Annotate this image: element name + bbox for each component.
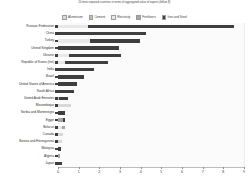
legend-label: Fertilizers — [142, 15, 155, 20]
bar-segment-iron-and-steel[interactable] — [58, 147, 61, 150]
category-label: Serbia and Montenegro — [0, 109, 54, 116]
category-label: Republic of Korea (the) — [0, 59, 54, 66]
stacked-bar[interactable] — [58, 140, 62, 143]
bar-row — [58, 153, 244, 160]
bar-segment-iron-and-steel[interactable] — [90, 39, 140, 42]
category-label: Russian Federation — [0, 23, 54, 30]
bar-segment-fertilizers[interactable] — [62, 126, 65, 129]
category-label: United Kingdom — [0, 45, 54, 52]
legend-item-electricity[interactable]: Electricity — [111, 15, 130, 20]
bar-segment-iron-and-steel[interactable] — [58, 68, 94, 71]
legend-swatch-icon — [62, 15, 67, 20]
row-background — [58, 95, 244, 102]
value-axis-baseline — [58, 167, 244, 168]
stacked-bar[interactable] — [58, 104, 71, 107]
legend-item-aluminium[interactable]: Aluminium — [62, 15, 82, 20]
stacked-bar[interactable] — [58, 90, 74, 93]
row-background — [58, 73, 244, 80]
stacked-bar[interactable] — [58, 111, 65, 114]
legend-swatch-icon — [89, 15, 94, 20]
axis-tick-label: 3 — [119, 170, 121, 175]
chart-legend: AluminiumCementElectricityFertilizersIro… — [0, 15, 249, 20]
category-label: Brazil — [0, 73, 54, 80]
bar-segment-iron-and-steel[interactable] — [58, 90, 74, 93]
bar-segment-iron-and-steel[interactable] — [69, 54, 121, 57]
stacked-bar[interactable] — [58, 82, 77, 85]
bar-segment-electricity[interactable] — [58, 39, 90, 42]
bar-row — [58, 145, 244, 152]
legend-swatch-icon — [136, 15, 141, 20]
category-label: Ukraine — [0, 52, 54, 59]
axis-tick-label: 5 — [160, 170, 162, 175]
axis-tick-label: 7 — [202, 170, 204, 175]
bar-segment-fertilizers[interactable] — [58, 154, 60, 157]
bar-row — [58, 52, 244, 59]
bar-segment-iron-and-steel[interactable] — [65, 61, 107, 64]
bar-segment-aluminium[interactable] — [58, 133, 63, 136]
stacked-bar[interactable] — [58, 54, 121, 57]
row-background — [58, 81, 244, 88]
bar-row — [58, 95, 244, 102]
stacked-bar[interactable] — [58, 133, 63, 136]
bar-segment-iron-and-steel[interactable] — [58, 111, 65, 114]
bar-segment-electricity[interactable] — [58, 54, 69, 57]
legend-swatch-icon — [162, 15, 167, 20]
category-label: Malaysia — [0, 145, 54, 152]
stacked-bar[interactable] — [58, 162, 62, 165]
bar-row — [58, 59, 244, 66]
stacked-bar[interactable] — [58, 97, 68, 100]
legend-item-iron-and-steel[interactable]: Iron and Steel — [162, 15, 187, 20]
legend-item-cement[interactable]: Cement — [89, 15, 106, 20]
bar-segment-iron-and-steel[interactable] — [63, 118, 65, 121]
row-background — [58, 153, 244, 160]
legend-item-fertilizers[interactable]: Fertilizers — [136, 15, 155, 20]
bar-segment-electricity[interactable] — [58, 25, 88, 28]
category-label: Turkey — [0, 37, 54, 44]
stacked-bar[interactable] — [58, 39, 140, 42]
stacked-bar[interactable] — [58, 154, 60, 157]
bar-segment-iron-and-steel[interactable] — [58, 32, 146, 35]
bar-row — [58, 66, 244, 73]
stacked-bar[interactable] — [58, 126, 65, 129]
category-label: United States of America — [0, 81, 54, 88]
gridline — [244, 23, 245, 167]
axis-tick-label: 1 — [78, 170, 80, 175]
row-background — [58, 117, 244, 124]
stacked-bar[interactable] — [58, 61, 108, 64]
legend-label: Aluminium — [68, 15, 82, 20]
row-background — [58, 131, 244, 138]
bar-segment-iron-and-steel[interactable] — [58, 162, 62, 165]
bar-segment-electricity[interactable] — [58, 61, 65, 64]
stacked-bar[interactable] — [58, 32, 146, 35]
category-label: Mozambique — [0, 102, 54, 109]
stacked-bar[interactable] — [58, 46, 119, 49]
category-label: United Arab Emirates — [0, 95, 54, 102]
axis-tick-label: 0 — [57, 170, 59, 175]
category-label: South Africa — [0, 88, 54, 95]
bar-row — [58, 45, 244, 52]
stacked-bar[interactable] — [58, 75, 84, 78]
bar-segment-aluminium[interactable] — [58, 140, 62, 143]
chart-title: 20 most exposed countries in terms of ag… — [0, 1, 249, 5]
bar-segment-iron-and-steel[interactable] — [59, 97, 68, 100]
axis-tick-label: 2 — [98, 170, 100, 175]
bar-row — [58, 131, 244, 138]
stacked-bar[interactable] — [58, 147, 61, 150]
row-background — [58, 88, 244, 95]
bar-segment-iron-and-steel[interactable] — [88, 25, 234, 28]
bar-row — [58, 37, 244, 44]
category-label: China — [0, 30, 54, 37]
axis-tick-label: 8 — [222, 170, 224, 175]
bar-segment-aluminium[interactable] — [58, 104, 71, 107]
row-background — [58, 109, 244, 116]
value-axis: 0123456789 — [58, 167, 244, 181]
stacked-bar[interactable] — [58, 68, 94, 71]
stacked-bar[interactable] — [58, 118, 65, 121]
category-label: Bosnia and Herzegovina — [0, 138, 54, 145]
stacked-bar[interactable] — [58, 25, 234, 28]
axis-tick-label: 9 — [243, 170, 245, 175]
bar-segment-iron-and-steel[interactable] — [58, 75, 84, 78]
bar-row — [58, 109, 244, 116]
bar-segment-iron-and-steel[interactable] — [58, 82, 77, 85]
bar-segment-iron-and-steel[interactable] — [58, 46, 119, 49]
